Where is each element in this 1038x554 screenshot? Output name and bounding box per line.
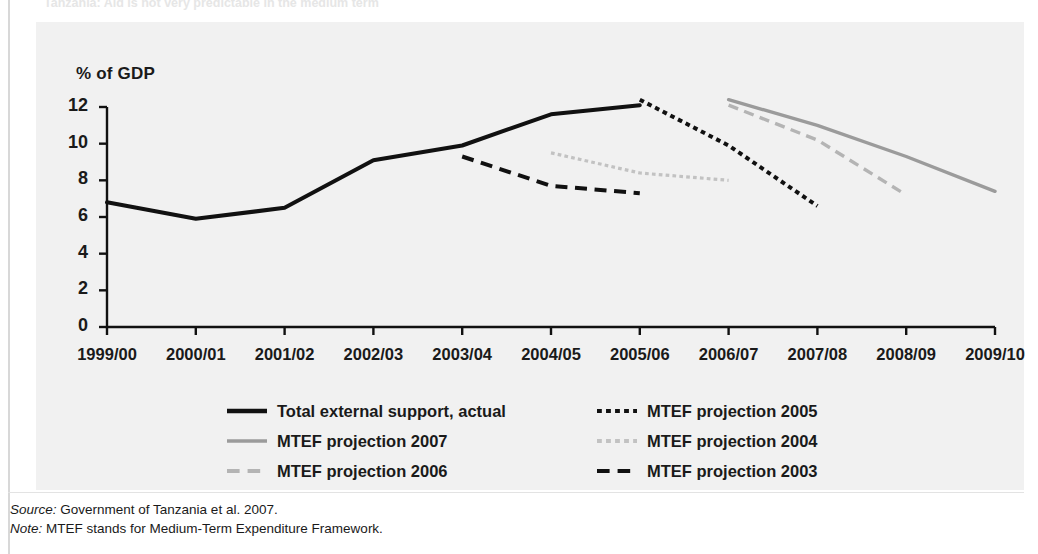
legend-label: MTEF projection 2007	[277, 432, 448, 451]
series-line-5	[551, 153, 729, 181]
series-line-3	[729, 105, 907, 195]
figure-notes: Source: Government of Tanzania et al. 20…	[10, 500, 1010, 538]
legend-item[interactable]: MTEF projection 2005	[596, 396, 818, 426]
page-margin-rule	[8, 0, 10, 554]
figure-source-line: Source: Government of Tanzania et al. 20…	[10, 500, 1010, 519]
series-line-1	[107, 105, 640, 219]
legend-label: Total external support, actual	[277, 402, 506, 421]
legend-swatch	[226, 434, 268, 448]
legend-column-left: Total external support, actualMTEF proje…	[226, 396, 506, 486]
series-line-6	[462, 157, 640, 194]
clipped-figure-heading: Tanzania: Aid is not very predictable in…	[44, 0, 744, 10]
note-text: MTEF stands for Medium-Term Expenditure …	[42, 521, 383, 536]
note-label: Note:	[10, 521, 42, 536]
figure-bottom-rule	[8, 492, 1024, 493]
legend-item[interactable]: Total external support, actual	[226, 396, 506, 426]
series-line-4	[640, 100, 818, 206]
legend-item[interactable]: MTEF projection 2006	[226, 456, 506, 486]
series-line-2	[729, 100, 995, 192]
line-chart-svg	[36, 22, 1024, 394]
legend-item[interactable]: MTEF projection 2007	[226, 426, 506, 456]
source-text: Government of Tanzania et al. 2007.	[57, 502, 278, 517]
legend-item[interactable]: MTEF projection 2004	[596, 426, 818, 456]
legend-item[interactable]: MTEF projection 2003	[596, 456, 818, 486]
legend-label: MTEF projection 2006	[277, 462, 448, 481]
figure-note-line: Note: MTEF stands for Medium-Term Expend…	[10, 519, 1010, 538]
source-label: Source:	[10, 502, 57, 517]
legend-label: MTEF projection 2003	[647, 462, 818, 481]
legend-column-right: MTEF projection 2005MTEF projection 2004…	[596, 396, 818, 486]
chart-panel: % of GDP 024681012 1999/002000/012001/02…	[36, 22, 1024, 490]
legend-swatch	[596, 404, 638, 418]
legend-label: MTEF projection 2005	[647, 402, 818, 421]
legend-swatch	[226, 404, 268, 418]
legend-label: MTEF projection 2004	[647, 432, 818, 451]
chart-legend: Total external support, actualMTEF proje…	[36, 394, 1024, 490]
legend-swatch	[226, 464, 268, 478]
legend-swatch	[596, 464, 638, 478]
legend-swatch	[596, 434, 638, 448]
